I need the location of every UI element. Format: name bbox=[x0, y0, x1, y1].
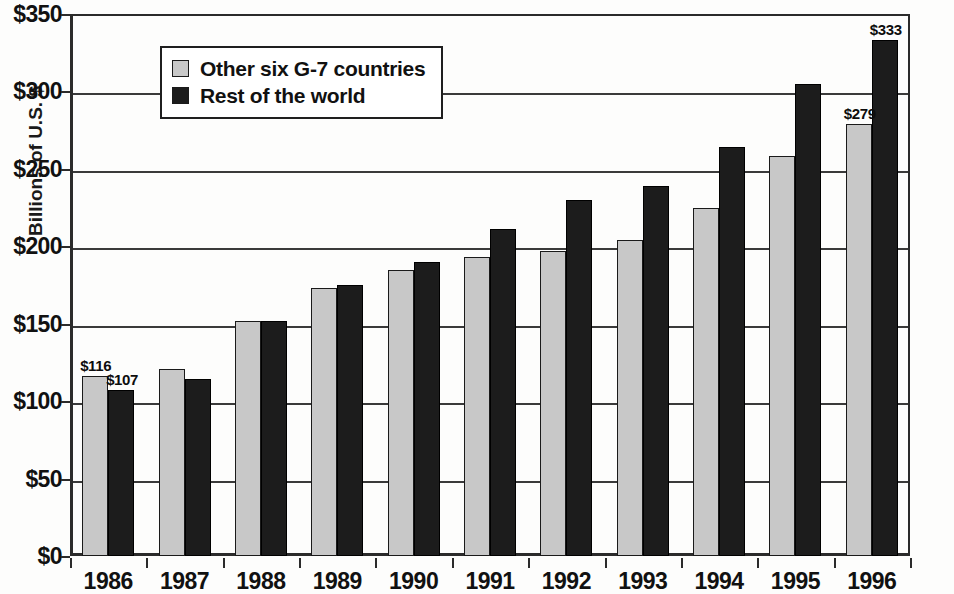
bar-1990-series-b bbox=[414, 262, 440, 556]
x-tick-mark bbox=[757, 558, 759, 568]
bar-1991-series-a bbox=[464, 257, 490, 556]
bar-1992-series-a bbox=[540, 251, 566, 556]
y-tick-mark bbox=[61, 556, 70, 558]
y-tick-label: $300 bbox=[13, 78, 62, 105]
bar-1988-series-b bbox=[261, 321, 287, 556]
bar-1988-series-a bbox=[235, 321, 261, 556]
x-tick-label: 1994 bbox=[694, 568, 743, 594]
bar-1995-series-b bbox=[795, 84, 821, 556]
bar-chart: Billions of U.S. $ $0$50$100$150$200$250… bbox=[0, 0, 954, 594]
legend-swatch-icon-series-b bbox=[172, 87, 189, 104]
x-tick-mark bbox=[605, 558, 607, 568]
y-tick-mark bbox=[61, 169, 70, 171]
x-tick-label: 1996 bbox=[847, 568, 896, 594]
bar-value-label: $279 bbox=[844, 105, 876, 122]
x-tick-label: 1995 bbox=[771, 568, 820, 594]
y-tick-mark bbox=[61, 401, 70, 403]
bar-1989-series-a bbox=[311, 288, 337, 556]
bar-1989-series-b bbox=[337, 285, 363, 556]
x-tick-label: 1993 bbox=[618, 568, 667, 594]
x-tick-label: 1990 bbox=[389, 568, 438, 594]
legend-swatch-icon-series-a bbox=[172, 60, 189, 77]
x-tick-mark bbox=[452, 558, 454, 568]
x-tick-label: 1987 bbox=[160, 568, 209, 594]
y-tick-label: $350 bbox=[13, 1, 62, 28]
y-tick-label: $100 bbox=[13, 388, 62, 415]
x-tick-mark bbox=[70, 558, 72, 568]
x-tick-mark bbox=[681, 558, 683, 568]
y-tick-label: $200 bbox=[13, 233, 62, 260]
legend-label-series-b: Rest of the world bbox=[200, 84, 365, 108]
y-tick-mark bbox=[61, 14, 70, 16]
x-tick-label: 1989 bbox=[313, 568, 362, 594]
bar-1994-series-a bbox=[693, 208, 719, 556]
bar-1994-series-b bbox=[719, 147, 745, 556]
y-tick-mark bbox=[61, 91, 70, 93]
y-tick-label: $50 bbox=[25, 465, 62, 492]
bar-1993-series-b bbox=[643, 186, 669, 556]
x-tick-label: 1988 bbox=[236, 568, 285, 594]
x-tick-label: 1986 bbox=[84, 568, 133, 594]
bar-1987-series-a bbox=[159, 369, 185, 556]
x-tick-label: 1991 bbox=[465, 568, 514, 594]
y-tick-mark bbox=[61, 479, 70, 481]
bar-value-label: $107 bbox=[106, 371, 138, 388]
bar-value-label: $333 bbox=[870, 21, 902, 38]
bar-1990-series-a bbox=[388, 270, 414, 556]
x-tick-mark bbox=[375, 558, 377, 568]
bar-1986-series-b bbox=[108, 390, 134, 556]
bar-1991-series-b bbox=[490, 229, 516, 556]
bar-1996-series-a bbox=[846, 124, 872, 556]
bar-1993-series-a bbox=[617, 240, 643, 556]
legend-item-series-a: Other six G-7 countries bbox=[172, 55, 425, 82]
y-tick-mark bbox=[61, 246, 70, 248]
y-tick-mark bbox=[61, 324, 70, 326]
x-tick-label: 1992 bbox=[542, 568, 591, 594]
x-tick-mark bbox=[223, 558, 225, 568]
legend-label-series-a: Other six G-7 countries bbox=[200, 57, 425, 81]
chart-legend: Other six G-7 countries Rest of the worl… bbox=[160, 46, 443, 119]
bar-1992-series-b bbox=[566, 200, 592, 556]
y-tick-label: $0 bbox=[38, 543, 62, 570]
x-tick-mark bbox=[834, 558, 836, 568]
x-tick-mark bbox=[299, 558, 301, 568]
x-axis: 1986198719881989199019911992199319941995… bbox=[70, 556, 910, 594]
legend-item-series-b: Rest of the world bbox=[172, 82, 425, 109]
y-tick-label: $250 bbox=[13, 155, 62, 182]
x-tick-mark bbox=[910, 558, 912, 568]
y-axis-ticks: $0$50$100$150$200$250$300$350 bbox=[0, 0, 66, 594]
bar-1995-series-a bbox=[769, 156, 795, 556]
bar-1987-series-b bbox=[185, 379, 211, 556]
bar-1986-series-a bbox=[82, 376, 108, 556]
x-tick-mark bbox=[146, 558, 148, 568]
x-tick-mark bbox=[528, 558, 530, 568]
y-tick-label: $150 bbox=[13, 310, 62, 337]
